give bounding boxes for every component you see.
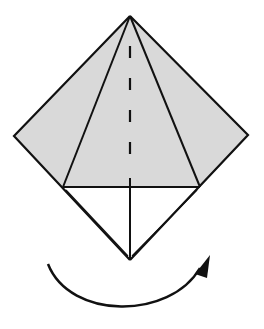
- turn-over-arrow-icon: [48, 264, 200, 307]
- origami-diagram: [0, 0, 264, 329]
- colored-paper-region: [14, 16, 248, 187]
- arrowhead-icon: [195, 255, 210, 278]
- white-paper-region: [63, 187, 200, 260]
